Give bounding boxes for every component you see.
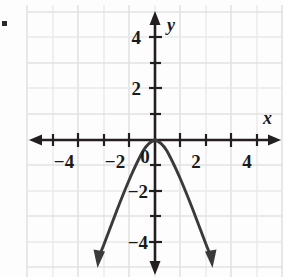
x-axis-right-arrow-icon [268,135,281,146]
curve-right-arrow-icon [205,250,217,269]
y-tick-label-neg4: −4 [128,232,149,253]
curve-left-arrow-icon [94,250,106,269]
x-tick-label-neg4: −4 [54,151,75,172]
x-tick-label-4: 4 [242,151,252,172]
x-tick-label-neg2: −2 [105,151,125,172]
x-axis-label: x [262,108,272,128]
coordinate-plane-chart: y x −4 −2 2 4 0 4 2 −2 −4 [0,0,283,277]
y-axis-top-arrow-icon [150,11,161,25]
y-axis-bottom-arrow-icon [150,261,161,275]
origin-label: 0 [140,146,150,167]
y-tick-label-2: 2 [132,78,142,99]
y-tick-label-4: 4 [132,27,142,48]
graph-figure: y x −4 −2 2 4 0 4 2 −2 −4 [0,0,283,277]
y-axis-label: y [165,15,176,35]
x-axis-left-arrow-icon [29,135,42,146]
y-tick-label-neg2: −2 [128,181,148,202]
x-tick-label-2: 2 [191,151,201,172]
